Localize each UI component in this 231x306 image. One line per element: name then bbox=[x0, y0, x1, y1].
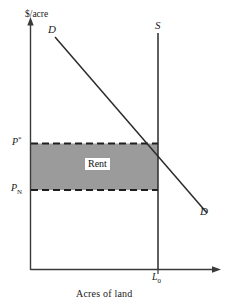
p-star-superscript: * bbox=[18, 135, 22, 143]
y-tick-label-p-star: P* bbox=[12, 136, 22, 147]
supply-curve-label: S bbox=[155, 20, 161, 31]
y-axis-title: $/acre bbox=[25, 10, 48, 20]
p-n-subscript: N bbox=[17, 188, 22, 196]
x-tick-label-l0: L0 bbox=[152, 272, 161, 285]
land-rent-figure: $/acre Acres of land D D S P* PN L0 Rent bbox=[0, 0, 231, 306]
demand-curve-label-bottom: D bbox=[200, 206, 208, 217]
chart-canvas bbox=[0, 0, 231, 306]
y-tick-label-p-n: PN bbox=[11, 183, 22, 196]
rent-area-label: Rent bbox=[85, 158, 110, 170]
x-axis-title: Acres of land bbox=[76, 289, 132, 299]
x-axis-arrowhead bbox=[212, 266, 221, 273]
l0-subscript: 0 bbox=[158, 277, 162, 285]
demand-curve-label-top: D bbox=[48, 24, 56, 35]
